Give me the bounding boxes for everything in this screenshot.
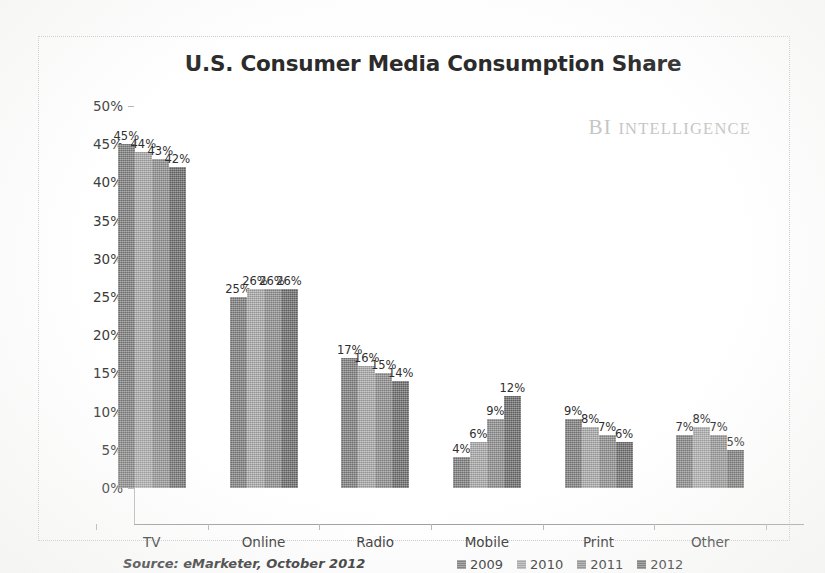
bar[interactable]: [710, 435, 727, 488]
x-axis-tick-mark: [766, 524, 767, 530]
bar-slot: 14%: [392, 106, 409, 488]
bar-slot: 4%: [453, 106, 470, 488]
bar-value-label: 9%: [564, 404, 582, 418]
legend-swatch-icon: [457, 560, 466, 569]
chart-legend: 2009201020112012: [457, 557, 683, 572]
bar-slot: 9%: [487, 106, 504, 488]
bar-value-label: 8%: [581, 412, 599, 426]
x-axis-category-label: Print: [583, 534, 614, 550]
bar-value-label: 42%: [165, 152, 191, 166]
x-axis-category-label: Online: [242, 534, 286, 550]
bar[interactable]: [392, 381, 409, 488]
y-axis-tick-label: 25%: [71, 289, 123, 305]
bar[interactable]: [118, 144, 135, 488]
bar[interactable]: [470, 442, 487, 488]
bar-slot: 6%: [616, 106, 633, 488]
y-axis-tick-mark: [128, 488, 134, 489]
bar[interactable]: [616, 442, 633, 488]
legend-item[interactable]: 2012: [637, 557, 683, 572]
bar-value-label: 12%: [500, 381, 526, 395]
bar[interactable]: [358, 366, 375, 488]
y-axis-tick-label: 15%: [71, 365, 123, 381]
legend-label: 2012: [650, 557, 683, 572]
bar[interactable]: [504, 396, 521, 488]
bar-value-label: 4%: [452, 442, 470, 456]
bar-value-label: 6%: [469, 427, 487, 441]
y-axis-tick-label: 40%: [71, 174, 123, 190]
x-axis-tick-mark: [319, 524, 320, 530]
bar-group-bars: 17%16%15%14%: [341, 106, 409, 488]
bar[interactable]: [247, 289, 264, 488]
bar[interactable]: [230, 297, 247, 488]
bar-group-bars: 4%6%9%12%: [453, 106, 521, 488]
bar-value-label: 9%: [486, 404, 504, 418]
bar-group-bars: 9%8%7%6%: [565, 106, 633, 488]
bar-value-label: 8%: [693, 412, 711, 426]
bar-slot: 25%: [230, 106, 247, 488]
bar[interactable]: [375, 373, 392, 488]
bar-group: 7%8%7%5%: [676, 106, 744, 488]
bar-slot: 26%: [247, 106, 264, 488]
bar-slot: 15%: [375, 106, 392, 488]
bar[interactable]: [264, 289, 281, 488]
bar-value-label: 7%: [710, 420, 728, 434]
y-axis-tick-label: 10%: [71, 404, 123, 420]
bar[interactable]: [487, 419, 504, 488]
bar[interactable]: [152, 159, 169, 488]
bar-group-bars: 45%44%43%42%: [118, 106, 186, 488]
bar[interactable]: [341, 358, 358, 488]
bar-slot: 17%: [341, 106, 358, 488]
bar[interactable]: [676, 435, 693, 488]
y-axis-tick-label: 30%: [71, 251, 123, 267]
bar[interactable]: [599, 435, 616, 488]
legend-label: 2009: [470, 557, 503, 572]
bar-value-label: 6%: [615, 427, 633, 441]
bar-slot: 9%: [565, 106, 582, 488]
legend-label: 2010: [530, 557, 563, 572]
bar-slot: 7%: [710, 106, 727, 488]
y-axis-tick-label: 50%: [71, 98, 123, 114]
x-axis-category-label: Mobile: [465, 534, 509, 550]
bar-group-bars: 25%26%26%26%: [230, 106, 298, 488]
bar-group: 4%6%9%12%: [453, 106, 521, 488]
bar-slot: 26%: [281, 106, 298, 488]
bar[interactable]: [453, 457, 470, 488]
bar-group: 9%8%7%6%: [565, 106, 633, 488]
bar[interactable]: [169, 167, 186, 488]
bar[interactable]: [727, 450, 744, 488]
source-note: Source: eMarketer, October 2012: [123, 556, 365, 571]
y-axis-tick-label: 0%: [71, 480, 123, 496]
legend-item[interactable]: 2011: [577, 557, 623, 572]
bar-slot: 45%: [118, 106, 135, 488]
bar-group-bars: 7%8%7%5%: [676, 106, 744, 488]
bar[interactable]: [693, 427, 710, 488]
bar-group: 25%26%26%26%: [230, 106, 298, 488]
bar-value-label: 5%: [727, 435, 745, 449]
bar[interactable]: [281, 289, 298, 488]
x-axis-tick-mark: [543, 524, 544, 530]
bar-value-label: 7%: [676, 420, 694, 434]
x-axis-category-label: Radio: [356, 534, 394, 550]
bar-value-label: 14%: [388, 366, 414, 380]
chart-frame: U.S. Consumer Media Consumption Share BI…: [38, 36, 790, 541]
bar-group: 45%44%43%42%: [118, 106, 186, 488]
bar-slot: 7%: [599, 106, 616, 488]
bar[interactable]: [135, 152, 152, 488]
bar[interactable]: [565, 419, 582, 488]
bar-slot: 8%: [582, 106, 599, 488]
bar-slot: 12%: [504, 106, 521, 488]
y-axis-tick-label: 35%: [71, 213, 123, 229]
legend-item[interactable]: 2009: [457, 557, 503, 572]
y-axis-tick-label: 5%: [71, 442, 123, 458]
bar-slot: 6%: [470, 106, 487, 488]
bar-value-label: 26%: [276, 274, 302, 288]
bar-group: 17%16%15%14%: [341, 106, 409, 488]
legend-swatch-icon: [577, 560, 586, 569]
legend-item[interactable]: 2010: [517, 557, 563, 572]
legend-swatch-icon: [517, 560, 526, 569]
legend-swatch-icon: [637, 560, 646, 569]
bar-slot: 16%: [358, 106, 375, 488]
x-axis-category-label: TV: [143, 534, 160, 550]
x-axis-category-label: Other: [691, 534, 729, 550]
bar[interactable]: [582, 427, 599, 488]
